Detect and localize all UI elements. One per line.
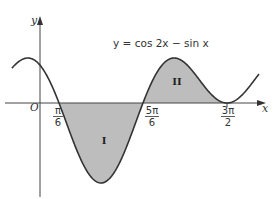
y-axis-label: y — [30, 14, 38, 27]
origin-label: O — [30, 101, 39, 113]
x-axis-label: x — [262, 102, 269, 115]
graph-figure: y x O y = cos 2x − sin x π 6 5π 6 3π 2 I… — [0, 0, 278, 199]
svg-text:5π: 5π — [146, 105, 158, 116]
tick-label-3pi-2: 3π 2 — [221, 105, 235, 128]
svg-text:6: 6 — [55, 117, 61, 128]
region-2-label: II — [172, 76, 182, 87]
svg-text:π: π — [55, 105, 61, 116]
svg-text:2: 2 — [225, 117, 231, 128]
region-2-shading — [143, 58, 227, 103]
tick-label-5pi-6: 5π 6 — [145, 105, 159, 128]
y-axis-arrow-icon — [37, 16, 43, 25]
svg-text:6: 6 — [149, 117, 155, 128]
svg-text:3π: 3π — [222, 105, 234, 116]
region-1-label: I — [102, 135, 107, 146]
equation-label: y = cos 2x − sin x — [113, 37, 209, 49]
